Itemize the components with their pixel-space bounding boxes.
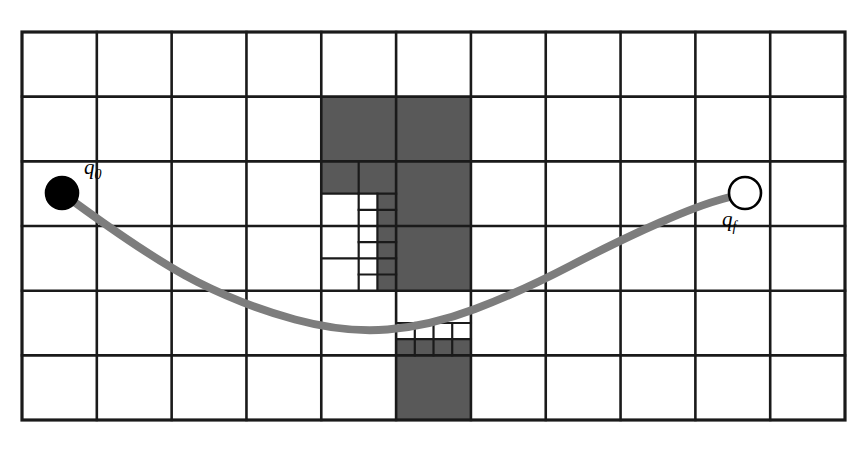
- cell-c6-r6: [396, 355, 471, 420]
- cell-c6-r2: [396, 97, 471, 162]
- figure-canvas: q0qf: [0, 0, 865, 452]
- start-node: [46, 177, 78, 209]
- cell-c6-r4-upper: [396, 226, 471, 291]
- cell-c6-r3: [396, 161, 471, 226]
- cell-c5-r2: [321, 97, 396, 162]
- quadtree-diagram-svg: q0qf: [0, 0, 865, 452]
- start-node-label-subscript: 0: [95, 167, 102, 182]
- goal-node: [729, 177, 761, 209]
